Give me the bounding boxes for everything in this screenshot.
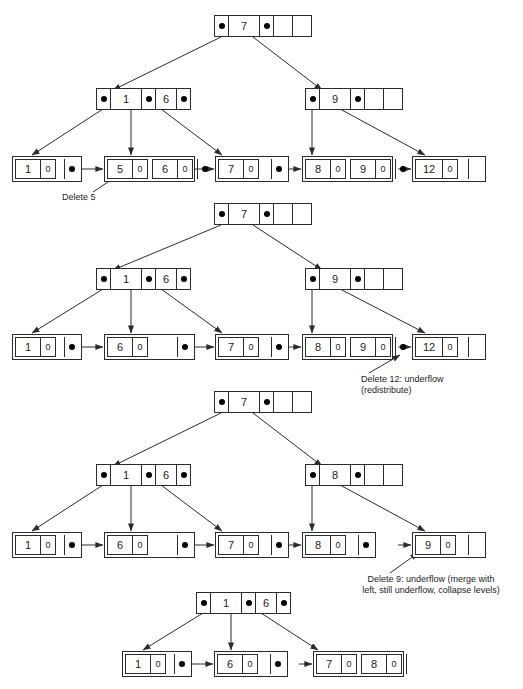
pointer-dot-icon — [101, 472, 107, 478]
empty-slot — [293, 392, 311, 412]
entry-value: 0 — [151, 655, 165, 673]
pointer-cell — [177, 89, 190, 109]
key-cell: 7 — [229, 204, 260, 224]
empty-slot — [293, 204, 311, 224]
pointer-dot-icon — [219, 23, 225, 29]
pointer-dot-icon — [400, 166, 406, 172]
next-leaf-pointer — [64, 159, 79, 179]
next-leaf-pointer — [395, 337, 410, 357]
internal-node-right-stage-1: 9 — [305, 88, 403, 110]
leaf-entry: 7 0 — [218, 337, 259, 357]
pointer-cell — [215, 204, 229, 224]
pointer-cell — [97, 465, 111, 485]
internal-node-root-stage-1: 7 — [214, 15, 312, 37]
leaf-node: 8 0 — [302, 532, 376, 558]
annotation-delete-9: Delete 9: underflow (merge with left, st… — [340, 574, 522, 596]
entry-value: 0 — [376, 160, 390, 178]
pointer-cell — [177, 465, 190, 485]
pointer-dot-icon — [146, 96, 152, 102]
leaf-entry: 6 0 — [107, 337, 148, 357]
next-leaf-pointer — [468, 337, 483, 357]
empty-slot — [365, 89, 384, 109]
pointer-dot-icon — [101, 276, 107, 282]
pointer-cell — [260, 16, 274, 36]
entry-key: 9 — [351, 160, 376, 178]
entry-key: 1 — [16, 338, 41, 356]
entry-value: 0 — [443, 338, 457, 356]
pointer-cell — [142, 89, 156, 109]
entry-key: 1 — [16, 536, 41, 554]
leaf-node: 7 0 — [215, 156, 289, 182]
internal-node-root-stage-2: 7 — [214, 203, 312, 225]
key-cell: 1 — [111, 269, 142, 289]
entry-key: 7 — [219, 536, 244, 554]
pointer-dot-icon — [202, 166, 208, 172]
leaf-node: 7 0 — [215, 532, 289, 558]
entry-key: 7 — [317, 655, 342, 673]
pointer-dot-icon — [182, 542, 188, 548]
entry-value: 0 — [331, 338, 345, 356]
internal-node-left-stage-1: 1 6 — [96, 88, 191, 110]
key-cell: 1 — [111, 89, 142, 109]
next-leaf-pointer — [270, 654, 285, 674]
next-leaf-pointer — [358, 535, 373, 555]
empty-slot — [293, 16, 311, 36]
leaf-node: 6 0 — [104, 532, 195, 558]
leaf-node: 1 0 — [12, 334, 82, 360]
leaf-entry: 1 0 — [15, 337, 56, 357]
key-cell: 6 — [156, 89, 177, 109]
entry-value: 0 — [387, 655, 401, 673]
next-leaf-pointer — [177, 535, 192, 555]
next-leaf-pointer — [64, 337, 79, 357]
entry-key: 7 — [219, 160, 244, 178]
leaf-entry: 7 0 — [218, 535, 259, 555]
entry-key: 8 — [306, 338, 331, 356]
entry-key: 12 — [416, 160, 443, 178]
leaf-entry: 1 0 — [15, 159, 56, 179]
pointer-dot-icon — [276, 542, 282, 548]
pointer-dot-icon — [246, 600, 252, 606]
leaf-node: 7 0 8 0 — [313, 651, 404, 677]
next-leaf-pointer — [64, 535, 79, 555]
pointer-dot-icon — [69, 166, 75, 172]
key-cell: 9 — [320, 89, 351, 109]
pointer-dot-icon — [276, 166, 282, 172]
next-leaf-pointer — [468, 159, 483, 179]
empty-slot — [365, 269, 384, 289]
pointer-dot-icon — [201, 600, 207, 606]
leaf-node: 8 0 9 0 — [302, 156, 393, 182]
internal-node-root-stage-4: 1 6 — [196, 592, 291, 614]
pointer-cell — [215, 16, 229, 36]
leaf-entry: 8 0 — [305, 159, 346, 179]
leaf-entry: 7 0 — [316, 654, 357, 674]
entry-key: 8 — [362, 655, 387, 673]
pointer-cell — [197, 593, 211, 613]
pointer-dot-icon — [182, 344, 188, 350]
pointer-dot-icon — [400, 344, 406, 350]
entry-value: 0 — [243, 655, 257, 673]
pointer-cell — [242, 593, 256, 613]
pointer-dot-icon — [69, 344, 75, 350]
pointer-cell — [260, 204, 274, 224]
internal-node-right-stage-3: 8 — [305, 464, 403, 486]
leaf-node: 8 0 9 0 — [302, 334, 393, 360]
entry-value: 0 — [376, 338, 390, 356]
empty-slot — [365, 465, 384, 485]
pointer-dot-icon — [363, 542, 369, 548]
leaf-node: 5 0 6 0 — [104, 156, 195, 182]
pointer-dot-icon — [181, 276, 187, 282]
empty-slot — [274, 392, 293, 412]
entry-key: 8 — [306, 536, 331, 554]
leaf-node: 1 0 — [12, 532, 82, 558]
pointer-dot-icon — [310, 96, 316, 102]
entry-key: 1 — [16, 160, 41, 178]
next-leaf-pointer — [197, 159, 212, 179]
pointer-dot-icon — [181, 472, 187, 478]
leaf-free-space — [152, 535, 177, 555]
entry-key: 12 — [416, 338, 443, 356]
entry-key: 7 — [219, 338, 244, 356]
leaf-entry: 1 0 — [125, 654, 166, 674]
leaf-entry: 12 0 — [415, 337, 458, 357]
pointer-dot-icon — [69, 542, 75, 548]
pointer-dot-icon — [355, 96, 361, 102]
